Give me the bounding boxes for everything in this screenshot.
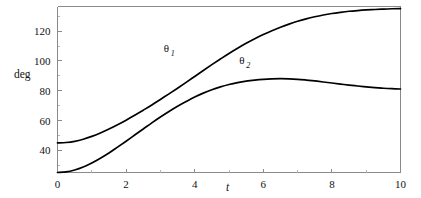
x-tick-label: 8 xyxy=(329,178,335,190)
x-tick-label: 0 xyxy=(55,178,61,190)
chart-figure: 406080100120 0246810 deg t θ1θ2 xyxy=(0,0,421,198)
x-tick-label: 10 xyxy=(395,178,407,190)
y-tick-label: 100 xyxy=(34,55,51,67)
x-tick-label: 6 xyxy=(261,178,267,190)
plot-frame xyxy=(58,7,401,173)
x-tick-label: 4 xyxy=(192,178,198,190)
line-chart-plot: 406080100120 0246810 deg t θ1θ2 xyxy=(0,0,421,198)
y-tick-label: 40 xyxy=(40,144,52,156)
x-axis-title: t xyxy=(226,181,230,193)
y-axis-title: deg xyxy=(14,68,31,81)
x-tick-label: 2 xyxy=(123,178,129,190)
x-axis-ticks: 0246810 xyxy=(55,169,407,190)
annotation-subscript: 1 xyxy=(171,49,175,58)
y-tick-label: 120 xyxy=(34,25,51,37)
annotation-theta_1: θ1 xyxy=(164,42,175,58)
curve-theta_1 xyxy=(58,9,401,143)
y-tick-label: 60 xyxy=(40,115,52,127)
y-tick-label: 80 xyxy=(40,85,52,97)
annotation-symbol: θ xyxy=(239,54,244,66)
curve-annotations: θ1θ2 xyxy=(164,42,250,70)
curve-theta_2 xyxy=(58,79,401,173)
data-curves xyxy=(58,9,401,173)
annotation-theta_2: θ2 xyxy=(239,54,250,70)
annotation-subscript: 2 xyxy=(246,61,250,70)
annotation-symbol: θ xyxy=(164,42,169,54)
